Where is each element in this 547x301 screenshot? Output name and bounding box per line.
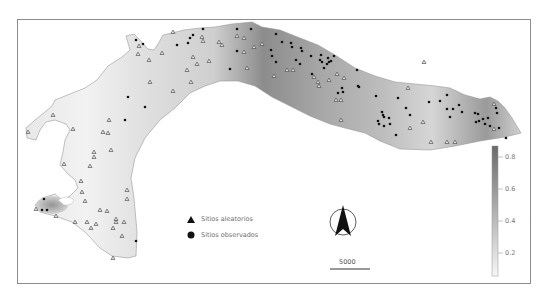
north-arrow-icon xyxy=(330,205,356,236)
legend: Sitios aleatorios Sitios observados xyxy=(185,211,258,243)
colorbar-tick-label: 0.4 xyxy=(505,217,515,225)
colorbar-ticks xyxy=(498,157,503,253)
legend-label: Sitios observados xyxy=(201,231,258,239)
map-canvas xyxy=(0,0,547,301)
legend-item-observed-sites: Sitios observados xyxy=(185,227,258,243)
scale-bar-label: 5000 xyxy=(339,258,356,266)
triangle-icon xyxy=(185,216,197,223)
legend-item-random-sites: Sitios aleatorios xyxy=(185,211,258,227)
colorbar xyxy=(492,146,498,276)
colorbar-tick-label: 0.2 xyxy=(505,249,515,257)
legend-label: Sitios aleatorios xyxy=(201,215,253,223)
colorbar-tick-label: 0.8 xyxy=(505,153,515,161)
colorbar-tick-label: 0.6 xyxy=(505,185,515,193)
circle-icon xyxy=(185,231,197,239)
